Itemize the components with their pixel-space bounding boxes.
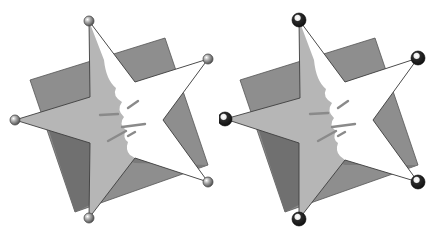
star-panel-right [219, 0, 438, 235]
star-panel-left [0, 0, 219, 235]
handle-bottom-right-icon [203, 177, 213, 187]
handle-bottom-icon [292, 212, 306, 226]
handle-top-right-icon [411, 51, 425, 65]
star-illustration-small-handles [0, 0, 219, 235]
star-illustration-large-handles [219, 0, 438, 235]
handle-left-icon [219, 112, 232, 126]
handle-top-right-icon [203, 54, 213, 64]
handle-top-icon [84, 16, 94, 26]
handle-top-icon [292, 13, 306, 27]
handle-bottom-icon [84, 213, 94, 223]
handle-left-icon [10, 115, 20, 125]
handle-bottom-right-icon [411, 175, 425, 189]
